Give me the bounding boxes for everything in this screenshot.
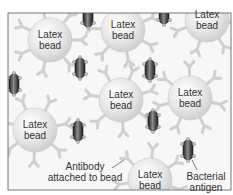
antigen-icon bbox=[12, 71, 15, 74]
bead-label-line2: bead bbox=[185, 20, 229, 31]
antigen-icon bbox=[18, 76, 21, 79]
bead-label: Latexbead bbox=[28, 29, 72, 51]
antibody-callout-line2: attached to bead bbox=[40, 172, 130, 183]
bead-label: Latexbead bbox=[101, 19, 145, 41]
antigen-icon bbox=[192, 154, 195, 157]
antigen-icon bbox=[162, 1, 165, 4]
antigen-icon bbox=[86, 4, 89, 7]
antigen-icon bbox=[145, 125, 148, 128]
antigen-icon bbox=[186, 159, 189, 162]
antigen-icon bbox=[157, 125, 160, 128]
antigen-icon bbox=[80, 9, 83, 12]
bead-label-line2: bead bbox=[168, 98, 212, 109]
antibody-icon bbox=[128, 0, 137, 11]
bead-label-line2: bead bbox=[99, 100, 143, 111]
antigen-callout-line2: antigen bbox=[181, 182, 231, 193]
antigen-icon bbox=[156, 6, 159, 9]
antigen-icon bbox=[82, 135, 85, 138]
bead-label-line1: Latex bbox=[128, 169, 172, 180]
antigen-icon bbox=[72, 60, 75, 63]
bead-label: Latexbead bbox=[99, 89, 143, 111]
antigen-icon bbox=[72, 72, 75, 75]
antigen-icon bbox=[154, 74, 157, 77]
bead-label: Latexbead bbox=[13, 119, 57, 141]
antibody-icon bbox=[98, 0, 111, 14]
antigen-icon bbox=[82, 123, 85, 126]
antigen-icon bbox=[84, 60, 87, 63]
bead-label-line1: Latex bbox=[101, 19, 145, 30]
antigen-icon bbox=[148, 79, 151, 82]
antigen-icon bbox=[78, 77, 81, 80]
antigen-icon bbox=[151, 108, 154, 111]
antigen-icon bbox=[80, 21, 83, 24]
antigen-icon bbox=[70, 123, 73, 126]
antigen-icon bbox=[168, 6, 171, 9]
bead-label: Latexbead bbox=[185, 9, 229, 31]
antigen-icon bbox=[92, 21, 95, 24]
antibody-callout-line1: Antibody bbox=[40, 161, 130, 172]
antigen-icon bbox=[154, 62, 157, 65]
bead-label-line2: bead bbox=[128, 180, 172, 191]
antigen-icon bbox=[168, 18, 171, 21]
bead-label: Latexbead bbox=[128, 169, 172, 191]
antigen-icon bbox=[186, 137, 189, 140]
antigen-icon bbox=[84, 72, 87, 75]
bead-label: Latexbead bbox=[168, 87, 212, 109]
antigen-icon bbox=[76, 118, 79, 121]
antigen-icon bbox=[156, 18, 159, 21]
bead-label-line1: Latex bbox=[168, 87, 212, 98]
bead-label-line1: Latex bbox=[185, 9, 229, 20]
antigen-icon bbox=[78, 55, 81, 58]
bead-label-line1: Latex bbox=[99, 89, 143, 100]
bead-label-line2: bead bbox=[101, 30, 145, 41]
antigen-icon bbox=[76, 140, 79, 143]
bead-label-line2: bead bbox=[28, 40, 72, 51]
antigen-icon bbox=[157, 113, 160, 116]
antigen-icon bbox=[12, 93, 15, 96]
antigen-icon bbox=[180, 142, 183, 145]
bead-label-line1: Latex bbox=[13, 119, 57, 130]
antigen-icon bbox=[70, 135, 73, 138]
antigen-callout-line1: Bacterial bbox=[181, 171, 231, 182]
bead-label-line1: Latex bbox=[28, 29, 72, 40]
antigen-icon bbox=[148, 57, 151, 60]
antigen-icon bbox=[192, 142, 195, 145]
antibody-callout: Antibody attached to bead bbox=[40, 161, 130, 183]
antibody-icon bbox=[221, 0, 233, 6]
antigen-icon bbox=[151, 130, 154, 133]
antigen-icon bbox=[18, 88, 21, 91]
antigen-callout: Bacterial antigen bbox=[181, 171, 231, 193]
antigen-icon bbox=[86, 26, 89, 29]
antigen-icon bbox=[162, 23, 165, 26]
bead-label-line2: bead bbox=[13, 130, 57, 141]
antigen-icon bbox=[92, 9, 95, 12]
antigen-icon bbox=[180, 154, 183, 157]
antigen-icon bbox=[142, 62, 145, 65]
antigen-icon bbox=[145, 113, 148, 116]
antigen-icon bbox=[142, 74, 145, 77]
